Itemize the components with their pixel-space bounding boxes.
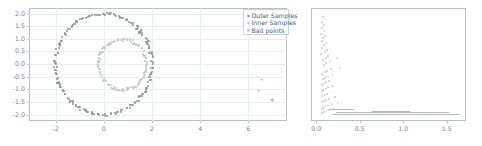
residual-point: [325, 81, 327, 83]
y-tick-mark: [27, 77, 29, 78]
figure-canvas: -2.0-1.5-1.0-0.50.00.51.01.52.0 -20246 O…: [0, 0, 482, 146]
y-tick-mark: [27, 14, 29, 15]
residual-point: [321, 90, 323, 92]
y-tick-label: -1.5: [2, 99, 25, 105]
residual-point: [326, 110, 328, 112]
legend-entry-outer-samples: Outer Samples: [246, 12, 285, 19]
residual-point: [322, 16, 324, 18]
x-tick-label: 4: [198, 126, 202, 132]
x-tick-mark: [360, 121, 361, 123]
right-plot-frame: [311, 8, 466, 121]
residual-point: [323, 24, 325, 26]
y-tick-label: -1.0: [2, 86, 25, 92]
residual-point: [330, 92, 332, 94]
baseline-segment: [330, 109, 354, 110]
residual-point: [321, 40, 323, 42]
residual-point: [324, 94, 326, 96]
residual-point: [333, 85, 335, 87]
legend[interactable]: Outer Samples Inner Samples Bad points: [243, 9, 289, 35]
y-tick-mark: [27, 26, 29, 27]
bad-point: [257, 89, 260, 92]
residual-point: [321, 21, 323, 23]
x-tick-label: 2: [150, 126, 154, 132]
residual-point: [329, 61, 331, 63]
residual-point: [332, 74, 334, 76]
residual-point: [329, 98, 331, 100]
residual-point: [321, 101, 323, 103]
residual-point: [323, 83, 325, 85]
dot-icon: [246, 29, 251, 31]
y-tick-mark: [27, 64, 29, 65]
residual-point: [324, 51, 326, 53]
residual-point: [323, 45, 325, 47]
baseline-segment: [336, 112, 449, 113]
x-tick-label: 0.0: [311, 126, 321, 132]
residual-point: [325, 99, 327, 101]
y-tick-mark: [27, 89, 29, 90]
residual-point: [327, 76, 329, 78]
y-tick-mark: [27, 39, 29, 40]
y-tick-mark: [27, 51, 29, 52]
residual-point: [324, 106, 326, 108]
y-tick-label: 2.0: [2, 10, 25, 16]
x-tick-label: 6: [246, 126, 250, 132]
residual-point: [324, 35, 326, 37]
bad-point: [260, 78, 263, 81]
residual-point: [324, 77, 326, 79]
legend-entry-bad-points: Bad points: [246, 27, 285, 34]
x-tick-mark: [447, 121, 448, 123]
residual-point: [321, 73, 323, 75]
gridline-vertical: [104, 8, 105, 121]
y-tick-label: 0.5: [2, 48, 25, 54]
residual-point: [326, 70, 328, 72]
residual-point: [327, 86, 329, 88]
residual-point: [325, 57, 327, 59]
x-tick-label: -2: [52, 126, 58, 132]
residual-point: [323, 111, 325, 113]
right-panel: 0.00.51.01.5: [290, 0, 482, 146]
dot-icon: [246, 22, 251, 24]
residual-point: [323, 64, 325, 66]
x-tick-mark: [104, 121, 105, 123]
x-tick-label: 0: [102, 126, 106, 132]
bad-point: [271, 99, 274, 102]
residual-point: [322, 37, 324, 39]
y-tick-label: 1.5: [2, 23, 25, 29]
residual-point: [327, 105, 329, 107]
y-tick-mark: [27, 115, 29, 116]
y-tick-label: -2.0: [2, 112, 25, 118]
dot-icon: [246, 15, 251, 17]
left-panel: -2.0-1.5-1.0-0.50.00.51.01.52.0 -20246 O…: [0, 0, 290, 146]
legend-label-bad-points: Bad points: [252, 27, 285, 34]
y-tick-label: -0.5: [2, 74, 25, 80]
residual-point: [321, 84, 323, 86]
residual-point: [322, 47, 324, 49]
residual-point: [326, 49, 328, 51]
residual-point: [320, 33, 322, 35]
residual-point: [326, 42, 328, 44]
residual-point: [322, 89, 324, 91]
residual-point: [337, 102, 339, 104]
gridline-vertical: [200, 8, 201, 121]
x-tick-label: 0.5: [355, 126, 365, 132]
residual-point: [322, 112, 324, 114]
residual-point: [323, 100, 325, 102]
legend-entry-inner-samples: Inner Samples: [246, 19, 285, 26]
residual-point: [327, 55, 329, 57]
residual-point: [339, 67, 341, 69]
residual-point: [322, 95, 324, 97]
x-tick-mark: [248, 121, 249, 123]
x-tick-label: 1.5: [442, 126, 452, 132]
x-tick-mark: [152, 121, 153, 123]
x-tick-label: 1.0: [398, 126, 408, 132]
x-tick-mark: [403, 121, 404, 123]
y-tick-label: 1.0: [2, 36, 25, 42]
residual-point: [321, 27, 323, 29]
residual-point: [336, 57, 338, 59]
residual-point: [322, 59, 324, 61]
residual-point: [322, 78, 324, 80]
residual-point: [320, 53, 322, 55]
baseline-segment: [332, 114, 460, 115]
residual-point: [324, 30, 326, 32]
residual-point: [325, 62, 327, 64]
